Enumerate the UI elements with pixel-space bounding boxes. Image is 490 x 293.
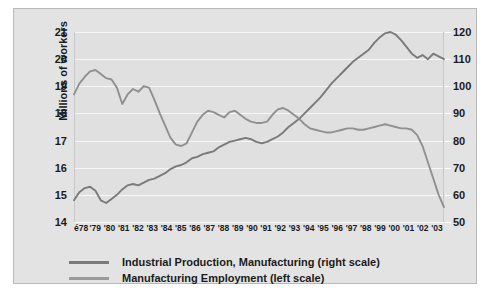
legend-label-industrial-production: Industrial Production, Manufacturing (ri… xyxy=(122,256,380,268)
x-axis-tick-label: '95 xyxy=(317,224,328,233)
x-axis-tick-label: '81 xyxy=(118,224,129,233)
right-axis-tick-mark xyxy=(445,86,451,87)
x-axis-tick-label: '88 xyxy=(218,224,229,233)
x-axis-tick-label: '96 xyxy=(332,224,343,233)
x-axis-tick-label: '98 xyxy=(360,224,371,233)
chart-legend: Industrial Production, Manufacturing (ri… xyxy=(69,254,469,286)
right-axis-tick-label: 70 xyxy=(453,163,481,174)
right-axis-tick-label: 100 xyxy=(453,81,481,92)
left-axis-tick-label: 20 xyxy=(45,54,67,65)
legend-item-manufacturing-employment: Manufacturing Employment (left scale) xyxy=(69,270,469,286)
x-axis-tick-label: '87 xyxy=(203,224,214,233)
right-axis-tick-mark xyxy=(445,59,451,60)
right-axis-tick-mark xyxy=(445,113,451,114)
x-axis-tick-label: '92 xyxy=(275,224,286,233)
legend-item-industrial-production: Industrial Production, Manufacturing (ri… xyxy=(69,254,469,270)
left-axis-tick-label: 15 xyxy=(45,190,67,201)
left-axis-tick-label: 14 xyxy=(45,217,67,228)
right-axis-tick-mark xyxy=(445,141,451,142)
left-axis-tick-label: 16 xyxy=(45,163,67,174)
x-axis-tick-label: '79 xyxy=(90,224,101,233)
left-axis-tick-label: 18 xyxy=(45,108,67,119)
x-axis-tick-label: '84 xyxy=(161,224,172,233)
x-axis-tick-label: '82 xyxy=(132,224,143,233)
x-axis-tick-label: '93 xyxy=(289,224,300,233)
right-axis-tick-mark xyxy=(445,195,451,196)
right-axis-tick-mark xyxy=(445,32,451,33)
right-axis-tick-label: 110 xyxy=(453,54,481,65)
x-axis-tick-label: '99 xyxy=(374,224,385,233)
x-axis-tick-label: '85 xyxy=(175,224,186,233)
line-industrial-production xyxy=(74,32,444,203)
x-axis-tick-label: '01 xyxy=(403,224,414,233)
legend-swatch-industrial-production xyxy=(69,261,109,264)
right-axis-tick-label: 120 xyxy=(453,27,481,38)
right-axis-tick-label: 60 xyxy=(453,190,481,201)
x-axis-tick-label: '94 xyxy=(303,224,314,233)
x-axis-tick-label: '90 xyxy=(246,224,257,233)
x-axis-tick-label: '89 xyxy=(232,224,243,233)
line-manufacturing-employment xyxy=(74,70,444,207)
right-axis-tick-mark xyxy=(445,222,451,223)
right-axis-tick-label: 80 xyxy=(453,136,481,147)
plot-area xyxy=(74,32,444,222)
left-axis-tick-label: 17 xyxy=(45,136,67,147)
x-axis-tick-label: '00 xyxy=(388,224,399,233)
right-axis-tick-label: 50 xyxy=(453,217,481,228)
left-axis-tick-label: 19 xyxy=(45,81,67,92)
x-axis-tick-label: '83 xyxy=(147,224,158,233)
legend-label-manufacturing-employment: Manufacturing Employment (left scale) xyxy=(122,272,324,284)
right-axis-tick-mark xyxy=(445,168,451,169)
x-axis-tick-label: '86 xyxy=(189,224,200,233)
chart-figure: Millions of workers 2120191817161514 120… xyxy=(0,0,490,293)
x-axis-tick-label: '91 xyxy=(260,224,271,233)
x-axis-tick-label: '80 xyxy=(104,224,115,233)
legend-swatch-manufacturing-employment xyxy=(69,277,109,280)
x-axis-tick-label: '97 xyxy=(346,224,357,233)
series-lines xyxy=(74,32,444,222)
x-axis-tick-label: '02 xyxy=(417,224,428,233)
x-axis-ticks: é78'79'80'81'82'83'84'85'86'87'88'89'90'… xyxy=(74,224,444,238)
chart-panel: Millions of workers 2120191817161514 120… xyxy=(13,8,477,284)
right-axis-tick-label: 90 xyxy=(453,108,481,119)
x-axis-tick-label: é78 xyxy=(74,224,88,233)
left-axis-tick-label: 21 xyxy=(45,27,67,38)
x-axis-tick-label: '03 xyxy=(431,224,442,233)
